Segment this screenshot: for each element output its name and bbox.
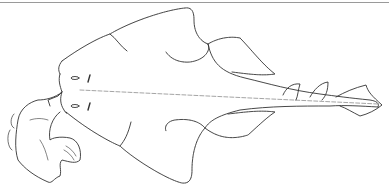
angel-shark-illustration: [0, 0, 389, 189]
eye-upper: [71, 77, 79, 80]
upper-pectoral-fin: [62, 8, 209, 62]
eye-lower: [71, 105, 79, 108]
lower-pectoral-fin: [66, 112, 205, 183]
